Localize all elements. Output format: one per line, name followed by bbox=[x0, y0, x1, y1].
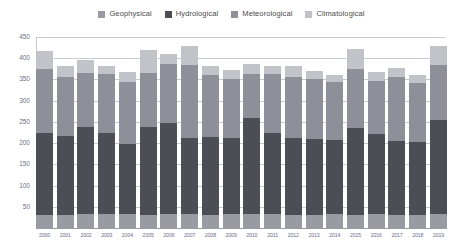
bar-segment-hydrological[interactable] bbox=[326, 140, 343, 215]
bar-segment-meteorological[interactable] bbox=[181, 65, 198, 137]
bar-segment-climatological[interactable] bbox=[430, 46, 447, 65]
legend-item-hydrological[interactable]: Hydrological bbox=[165, 10, 218, 18]
bar-segment-climatological[interactable] bbox=[119, 72, 136, 81]
bar-column-2008[interactable] bbox=[202, 37, 219, 228]
bar-segment-climatological[interactable] bbox=[347, 49, 364, 69]
bar-segment-geophysical[interactable] bbox=[223, 214, 240, 228]
bar-segment-geophysical[interactable] bbox=[326, 214, 343, 228]
bar-segment-climatological[interactable] bbox=[368, 72, 385, 80]
bar-segment-geophysical[interactable] bbox=[160, 214, 177, 228]
bar-segment-hydrological[interactable] bbox=[264, 133, 281, 214]
bar-segment-meteorological[interactable] bbox=[347, 69, 364, 128]
bar-segment-meteorological[interactable] bbox=[160, 64, 177, 123]
bar-segment-meteorological[interactable] bbox=[98, 74, 115, 133]
bar-segment-hydrological[interactable] bbox=[36, 133, 53, 216]
bar-column-2005[interactable] bbox=[140, 37, 157, 228]
bar-column-2010[interactable] bbox=[243, 37, 260, 228]
bar-segment-geophysical[interactable] bbox=[98, 214, 115, 228]
bar-segment-meteorological[interactable] bbox=[223, 79, 240, 138]
bar-segment-hydrological[interactable] bbox=[409, 142, 426, 215]
bar-segment-geophysical[interactable] bbox=[119, 214, 136, 228]
bar-segment-hydrological[interactable] bbox=[98, 133, 115, 214]
bar-column-2018[interactable] bbox=[409, 37, 426, 228]
bar-segment-climatological[interactable] bbox=[202, 66, 219, 75]
bar-segment-hydrological[interactable] bbox=[347, 128, 364, 215]
bar-segment-meteorological[interactable] bbox=[119, 82, 136, 145]
bar-segment-climatological[interactable] bbox=[285, 66, 302, 77]
bar-segment-geophysical[interactable] bbox=[430, 214, 447, 228]
bar-column-2015[interactable] bbox=[347, 37, 364, 228]
bar-column-2014[interactable] bbox=[326, 37, 343, 228]
bar-column-2004[interactable] bbox=[119, 37, 136, 228]
bar-segment-geophysical[interactable] bbox=[368, 214, 385, 228]
bar-segment-meteorological[interactable] bbox=[326, 82, 343, 139]
legend-item-meteorological[interactable]: Meteorological bbox=[231, 10, 292, 18]
bar-segment-meteorological[interactable] bbox=[57, 77, 74, 136]
bar-segment-meteorological[interactable] bbox=[306, 79, 323, 139]
bar-column-2007[interactable] bbox=[181, 37, 198, 228]
bar-column-2003[interactable] bbox=[98, 37, 115, 228]
bar-segment-hydrological[interactable] bbox=[368, 134, 385, 215]
bar-column-2016[interactable] bbox=[368, 37, 385, 228]
bar-segment-climatological[interactable] bbox=[388, 68, 405, 77]
bar-segment-meteorological[interactable] bbox=[243, 74, 260, 119]
bar-segment-climatological[interactable] bbox=[98, 66, 115, 74]
bar-segment-hydrological[interactable] bbox=[388, 141, 405, 215]
bar-segment-geophysical[interactable] bbox=[36, 215, 53, 228]
bar-segment-climatological[interactable] bbox=[140, 50, 157, 72]
bar-segment-geophysical[interactable] bbox=[264, 214, 281, 228]
bar-segment-hydrological[interactable] bbox=[306, 139, 323, 215]
bar-segment-climatological[interactable] bbox=[77, 60, 94, 73]
bar-segment-geophysical[interactable] bbox=[57, 215, 74, 228]
bar-column-2006[interactable] bbox=[160, 37, 177, 228]
bar-segment-climatological[interactable] bbox=[181, 46, 198, 65]
bar-column-2002[interactable] bbox=[77, 37, 94, 228]
bar-column-2009[interactable] bbox=[223, 37, 240, 228]
bar-column-2001[interactable] bbox=[57, 37, 74, 228]
bar-segment-meteorological[interactable] bbox=[36, 69, 53, 133]
bar-segment-hydrological[interactable] bbox=[285, 138, 302, 215]
bar-segment-meteorological[interactable] bbox=[202, 75, 219, 137]
bar-segment-climatological[interactable] bbox=[57, 66, 74, 77]
bar-segment-hydrological[interactable] bbox=[160, 123, 177, 214]
bar-segment-hydrological[interactable] bbox=[181, 138, 198, 214]
bar-segment-climatological[interactable] bbox=[409, 75, 426, 83]
bar-segment-hydrological[interactable] bbox=[140, 127, 157, 215]
bar-segment-geophysical[interactable] bbox=[388, 215, 405, 228]
bar-segment-meteorological[interactable] bbox=[285, 77, 302, 139]
bar-segment-hydrological[interactable] bbox=[223, 138, 240, 214]
legend-item-geophysical[interactable]: Geophysical bbox=[98, 10, 151, 18]
bar-column-2000[interactable] bbox=[36, 37, 53, 228]
bar-segment-hydrological[interactable] bbox=[202, 137, 219, 215]
bar-segment-geophysical[interactable] bbox=[243, 214, 260, 228]
bar-segment-hydrological[interactable] bbox=[430, 120, 447, 214]
bar-segment-geophysical[interactable] bbox=[202, 215, 219, 228]
bar-segment-climatological[interactable] bbox=[36, 51, 53, 69]
bar-segment-hydrological[interactable] bbox=[57, 136, 74, 216]
bar-segment-meteorological[interactable] bbox=[77, 73, 94, 127]
bar-segment-climatological[interactable] bbox=[243, 64, 260, 73]
bar-segment-meteorological[interactable] bbox=[140, 73, 157, 127]
bar-segment-geophysical[interactable] bbox=[77, 214, 94, 228]
bar-segment-climatological[interactable] bbox=[160, 54, 177, 63]
bar-segment-meteorological[interactable] bbox=[368, 81, 385, 134]
bar-segment-hydrological[interactable] bbox=[119, 144, 136, 214]
bar-segment-meteorological[interactable] bbox=[409, 83, 426, 142]
bar-segment-meteorological[interactable] bbox=[388, 77, 405, 141]
bar-column-2017[interactable] bbox=[388, 37, 405, 228]
bar-segment-geophysical[interactable] bbox=[409, 215, 426, 228]
bar-column-2013[interactable] bbox=[306, 37, 323, 228]
bar-segment-hydrological[interactable] bbox=[77, 127, 94, 214]
bar-segment-geophysical[interactable] bbox=[181, 214, 198, 228]
bar-segment-hydrological[interactable] bbox=[243, 118, 260, 214]
bar-segment-geophysical[interactable] bbox=[140, 215, 157, 228]
bar-segment-climatological[interactable] bbox=[223, 70, 240, 79]
bar-segment-meteorological[interactable] bbox=[430, 65, 447, 120]
bar-column-2011[interactable] bbox=[264, 37, 281, 228]
bar-segment-geophysical[interactable] bbox=[347, 215, 364, 228]
bar-segment-geophysical[interactable] bbox=[285, 215, 302, 228]
bar-segment-climatological[interactable] bbox=[306, 71, 323, 79]
bar-segment-meteorological[interactable] bbox=[264, 74, 281, 133]
bar-column-2012[interactable] bbox=[285, 37, 302, 228]
bar-column-2019[interactable] bbox=[430, 37, 447, 228]
